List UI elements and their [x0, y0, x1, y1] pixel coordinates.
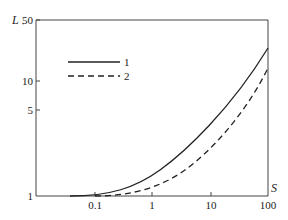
x-tick-label: 0.1 [88, 199, 102, 211]
legend-label: 1 [124, 56, 130, 68]
y-axis-label-dot: , [22, 17, 24, 26]
x-axis-label: S [271, 181, 277, 195]
chart-canvas: 50 10 5 1 0.1 1 10 100 L , S 1 2 [0, 0, 288, 220]
legend-label: 2 [124, 70, 130, 82]
y-axis-label: L [11, 13, 19, 27]
y-tick-label: 10 [22, 75, 34, 87]
x-tick-label: 10 [206, 199, 218, 211]
y-tick-label: 1 [28, 190, 34, 202]
x-tick-label: 1 [149, 199, 155, 211]
series-1-line [70, 48, 268, 196]
legend: 1 2 [68, 56, 130, 82]
x-tick-label: 100 [260, 199, 277, 211]
y-ticks: 50 10 5 1 [22, 14, 40, 202]
plot-frame [36, 20, 268, 196]
y-tick-label: 5 [28, 104, 34, 116]
